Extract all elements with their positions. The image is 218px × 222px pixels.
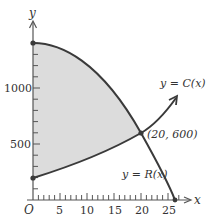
- y-tick-label-1000: 1000: [4, 82, 32, 95]
- r-intercept-point: [30, 40, 35, 45]
- intersection-label: (20, 600): [147, 128, 198, 141]
- y-tick-label-500: 500: [10, 138, 31, 151]
- origin-label: O: [24, 203, 34, 217]
- cost-curve-label: y = C(x): [159, 77, 206, 90]
- revenue-curve-label: y = R(x): [121, 168, 168, 181]
- intersection-point: [138, 130, 143, 135]
- x-tick-label-15: 15: [108, 204, 122, 217]
- r-x-intercept-point: [173, 198, 178, 203]
- y-axis-label: y: [28, 6, 36, 20]
- shaded-region: [33, 43, 141, 178]
- x-axis-label: x: [194, 193, 201, 207]
- c-intercept-point: [30, 175, 35, 180]
- x-tick-label-10: 10: [80, 204, 94, 217]
- x-tick-label-25: 25: [162, 204, 176, 217]
- chart-canvas: y x O 5 10 15 20 25 500 1000 (20, 600) y…: [0, 0, 218, 222]
- x-tick-label-5: 5: [56, 204, 63, 217]
- x-tick-label-20: 20: [135, 204, 149, 217]
- x-ticks: [38, 193, 178, 200]
